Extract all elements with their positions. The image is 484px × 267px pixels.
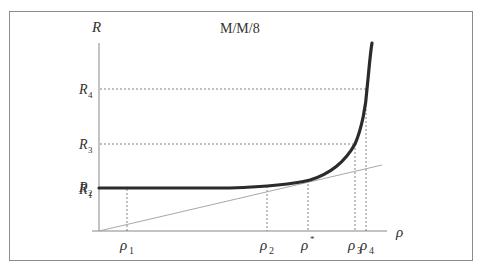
x-axis-label: ρ (395, 224, 403, 240)
rho4-sub: 4 (369, 245, 374, 256)
chart-svg: M/M/8 R ρ R 4 R 3 R 2 R 1 ρ 1 ρ 2 ρ * ρ … (0, 0, 484, 267)
r4-label: R (78, 82, 88, 97)
r1-label: R (78, 182, 88, 197)
y-tick-r4: R 4 (78, 82, 93, 100)
r1-sub: 1 (88, 190, 93, 200)
tangent-line (99, 165, 382, 231)
x-tick-rhostar: ρ * (300, 234, 315, 253)
r3-sub: 3 (88, 145, 93, 155)
rhostar-label: ρ (300, 237, 308, 253)
rho3-label: ρ (347, 237, 355, 253)
r4-sub: 4 (88, 90, 93, 100)
y-tick-r1-r2: R 2 R 1 (78, 180, 93, 200)
response-curve (99, 43, 372, 188)
x-tick-rho2: ρ 2 (259, 237, 274, 256)
chart-title: M/M/8 (220, 21, 260, 36)
y-axis-label: R (91, 19, 101, 35)
rho4-label: ρ (359, 237, 367, 253)
rho1-sub: 1 (129, 245, 134, 256)
rho2-label: ρ (259, 237, 267, 253)
y-tick-r3: R 3 (78, 137, 93, 155)
rho1-label: ρ (119, 237, 127, 253)
x-tick-rho1: ρ 1 (119, 237, 134, 256)
rhostar-sup: * (310, 234, 315, 244)
rho2-sub: 2 (269, 245, 274, 256)
r3-label: R (78, 137, 88, 152)
